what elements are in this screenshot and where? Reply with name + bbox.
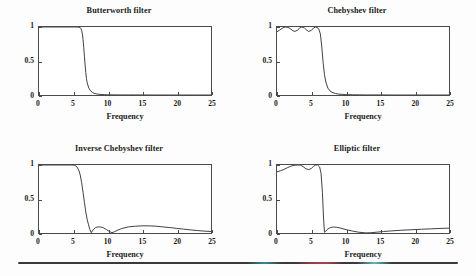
panel-title-elliptic: Elliptic filter bbox=[238, 144, 476, 153]
xtick-label: 20 bbox=[173, 100, 181, 108]
xtick-mark bbox=[74, 92, 75, 95]
horizontal-rule bbox=[18, 262, 458, 264]
xtick-mark bbox=[347, 92, 348, 95]
ytick-mark bbox=[39, 200, 42, 201]
xtick-mark bbox=[312, 92, 313, 95]
plot-area-butterworth bbox=[38, 26, 212, 96]
xtick-label: 25 bbox=[446, 100, 454, 108]
ytick-label: 0 bbox=[238, 230, 272, 238]
xtick-label: 0 bbox=[274, 238, 278, 246]
panel-inverse-chebyshev-filter: Inverse Chebyshev filter 00.510510152025… bbox=[0, 138, 238, 276]
xtick-label: 25 bbox=[208, 100, 216, 108]
xtick-mark bbox=[450, 92, 451, 95]
ytick-label: 0 bbox=[0, 92, 34, 100]
ytick-mark bbox=[277, 200, 280, 201]
xtick-mark bbox=[143, 230, 144, 233]
plot-area-inverse-chebyshev bbox=[38, 164, 212, 234]
ytick-label: 1 bbox=[238, 160, 272, 168]
xtick-mark bbox=[277, 230, 278, 233]
ytick-mark bbox=[277, 234, 280, 235]
xtick-mark bbox=[381, 92, 382, 95]
ytick-mark bbox=[277, 165, 280, 166]
ytick-mark bbox=[39, 62, 42, 63]
xtick-mark bbox=[312, 230, 313, 233]
curve-butterworth bbox=[39, 27, 211, 95]
plot-area-chebyshev bbox=[276, 26, 450, 96]
xlabel-chebyshev: Frequency bbox=[276, 112, 450, 121]
xtick-label: 15 bbox=[377, 238, 385, 246]
xtick-label: 0 bbox=[274, 100, 278, 108]
panel-title-inverse-chebyshev: Inverse Chebyshev filter bbox=[0, 144, 238, 153]
xtick-mark bbox=[39, 230, 40, 233]
ytick-label: 0.5 bbox=[0, 57, 34, 65]
ytick-mark bbox=[39, 27, 42, 28]
xtick-mark bbox=[74, 230, 75, 233]
ytick-label: 0 bbox=[0, 230, 34, 238]
ytick-mark bbox=[39, 165, 42, 166]
xlabel-butterworth: Frequency bbox=[38, 112, 212, 121]
xtick-label: 15 bbox=[139, 238, 147, 246]
xtick-mark bbox=[39, 92, 40, 95]
xtick-label: 25 bbox=[446, 238, 454, 246]
xtick-label: 15 bbox=[139, 100, 147, 108]
ytick-label: 1 bbox=[238, 22, 272, 30]
xtick-label: 20 bbox=[411, 238, 419, 246]
xtick-label: 20 bbox=[411, 100, 419, 108]
panel-elliptic-filter: Elliptic filter 00.510510152025 Frequenc… bbox=[238, 138, 476, 276]
panel-title-chebyshev: Chebyshev filter bbox=[238, 6, 476, 15]
filter-response-figure: Butterworth filter 00.510510152025 Frequ… bbox=[0, 0, 476, 276]
xtick-label: 15 bbox=[377, 100, 385, 108]
xtick-label: 10 bbox=[104, 238, 112, 246]
ytick-label: 1 bbox=[0, 22, 34, 30]
panel-butterworth-filter: Butterworth filter 00.510510152025 Frequ… bbox=[0, 0, 238, 138]
ytick-label: 0.5 bbox=[238, 57, 272, 65]
xtick-label: 20 bbox=[173, 238, 181, 246]
xtick-label: 5 bbox=[309, 100, 313, 108]
xlabel-elliptic: Frequency bbox=[276, 250, 450, 259]
ytick-label: 1 bbox=[0, 160, 34, 168]
xtick-label: 0 bbox=[36, 238, 40, 246]
xtick-mark bbox=[416, 92, 417, 95]
curve-elliptic bbox=[277, 165, 449, 233]
xtick-mark bbox=[277, 92, 278, 95]
xtick-mark bbox=[178, 230, 179, 233]
xlabel-inverse-chebyshev: Frequency bbox=[38, 250, 212, 259]
xtick-label: 0 bbox=[36, 100, 40, 108]
plot-area-elliptic bbox=[276, 164, 450, 234]
xtick-label: 5 bbox=[71, 238, 75, 246]
ytick-mark bbox=[277, 27, 280, 28]
xtick-mark bbox=[109, 230, 110, 233]
xtick-label: 10 bbox=[342, 238, 350, 246]
ytick-mark bbox=[277, 62, 280, 63]
xtick-label: 5 bbox=[309, 238, 313, 246]
xtick-mark bbox=[381, 230, 382, 233]
xtick-mark bbox=[143, 92, 144, 95]
xtick-label: 10 bbox=[342, 100, 350, 108]
xtick-mark bbox=[178, 92, 179, 95]
ytick-label: 0 bbox=[238, 92, 272, 100]
xtick-label: 25 bbox=[208, 238, 216, 246]
xtick-mark bbox=[450, 230, 451, 233]
xtick-mark bbox=[416, 230, 417, 233]
ytick-mark bbox=[39, 234, 42, 235]
curve-inverse-chebyshev bbox=[39, 165, 211, 233]
xtick-label: 5 bbox=[71, 100, 75, 108]
curve-chebyshev bbox=[277, 27, 449, 95]
ytick-mark bbox=[39, 96, 42, 97]
xtick-mark bbox=[347, 230, 348, 233]
xtick-mark bbox=[109, 92, 110, 95]
ytick-label: 0.5 bbox=[0, 195, 34, 203]
panel-chebyshev-filter: Chebyshev filter 00.510510152025 Frequen… bbox=[238, 0, 476, 138]
xtick-mark bbox=[212, 92, 213, 95]
ytick-label: 0.5 bbox=[238, 195, 272, 203]
xtick-label: 10 bbox=[104, 100, 112, 108]
ytick-mark bbox=[277, 96, 280, 97]
xtick-mark bbox=[212, 230, 213, 233]
panel-title-butterworth: Butterworth filter bbox=[0, 6, 238, 15]
